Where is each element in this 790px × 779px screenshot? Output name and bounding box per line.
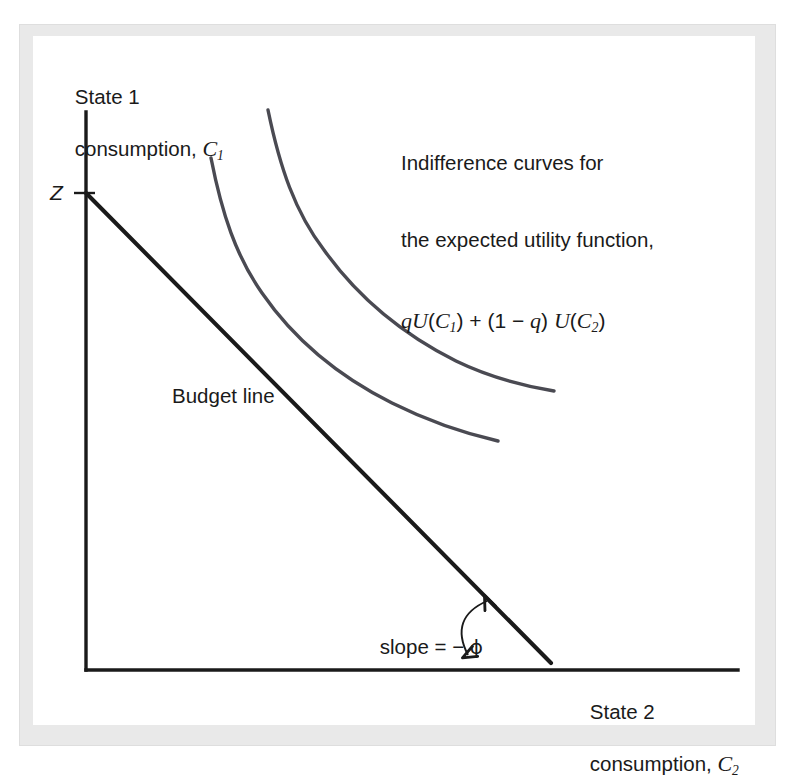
annotation-formula: qU(C1) + (1 − q) U(C2) — [401, 307, 654, 336]
formula-c1: C — [435, 308, 450, 333]
slope-label: slope = − ϕ — [357, 608, 483, 686]
formula-c1-subscript: 1 — [450, 320, 457, 335]
y-axis-label-line1: State 1 — [75, 85, 140, 108]
annotation-block: Indifference curves for the expected uti… — [401, 98, 654, 388]
formula-open-2: (1 − — [487, 309, 530, 332]
formula-q2: q — [530, 308, 541, 333]
formula-open-3: ( — [570, 309, 577, 332]
x-axis-variable-subscript: 2 — [732, 763, 739, 778]
x-axis-variable: C — [717, 751, 732, 776]
formula-u1: U — [412, 308, 428, 333]
formula-open-1: ( — [428, 309, 435, 332]
annotation-line-1: Indifference curves for — [401, 150, 654, 176]
formula-q1: q — [401, 308, 412, 333]
annotation-line-2: the expected utility function, — [401, 227, 654, 253]
formula-plus: + — [464, 309, 488, 332]
x-axis-label-line2: consumption, — [590, 752, 718, 775]
budget-line-label: Budget line — [172, 383, 275, 409]
y-axis-label-line2: consumption, — [75, 137, 203, 160]
x-axis-label-line1: State 2 — [590, 700, 655, 723]
formula-c2: C — [577, 308, 592, 333]
slope-label-text: slope = − — [380, 635, 470, 658]
y-axis-variable: C — [202, 136, 217, 161]
formula-close-3: ) — [598, 309, 605, 332]
formula-close-1: ) — [457, 309, 464, 332]
y-axis-label: State 1 consumption, C1 — [52, 58, 224, 190]
endowment-point-label: Z — [50, 180, 63, 206]
formula-u2: U — [554, 308, 570, 333]
formula-close-2: ) — [541, 309, 554, 332]
y-axis-variable-subscript: 1 — [217, 148, 224, 163]
x-axis-label: State 2 consumption, C2 — [567, 673, 739, 779]
phi-symbol: ϕ — [470, 635, 483, 659]
